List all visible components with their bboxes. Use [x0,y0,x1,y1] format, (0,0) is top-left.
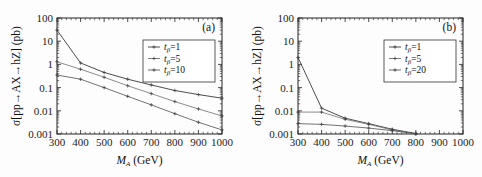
x-axis-title: MA (GeV) [356,154,403,168]
x-tick-label: 400 [313,136,330,148]
x-tick-label: 600 [360,136,377,148]
x-tick-label: 600 [119,136,136,148]
data-curve [57,75,222,130]
plot-b-svg: 30040050060070080090010000.0010.010.1110… [241,0,482,177]
y-tick-label: 0.1 [39,82,53,94]
x-tick-label: 500 [337,136,354,148]
panel-a: 30040050060070080090010000.0010.010.1110… [0,0,241,177]
y-tick-label: 1 [48,58,54,70]
x-tick-label: 700 [143,136,160,148]
x-tick-label: 400 [72,136,89,148]
plot-a-svg: 30040050060070080090010000.0010.010.1110… [0,0,241,177]
data-curve [298,124,416,134]
y-tick-label: 0.01 [275,105,294,117]
plot-b-content: 30040050060070080090010000.0010.010.1110… [251,12,475,168]
y-tick-label: 0.001 [28,128,53,140]
y-tick-label: 0.001 [269,128,294,140]
figure-container: 30040050060070080090010000.0010.010.1110… [0,0,482,177]
x-tick-label: 900 [190,136,207,148]
data-curve [298,112,416,134]
y-axis-title: σ[pp→AX→hZ] (pb) [251,26,264,126]
x-tick-label: 800 [408,136,425,148]
plot-a-content: 30040050060070080090010000.0010.010.1110… [10,12,234,168]
panel-tag: (a) [202,21,215,34]
y-tick-label: 100 [278,12,295,24]
x-tick-label: 800 [167,136,184,148]
y-tick-label: 0.01 [34,105,53,117]
y-tick-label: 1 [289,58,295,70]
x-tick-label: 500 [96,136,113,148]
y-tick-label: 10 [283,35,295,47]
panel-tag: (b) [443,21,457,34]
y-tick-label: 0.1 [280,82,294,94]
x-tick-label: 1000 [211,136,234,148]
y-axis-title: σ[pp→AX→hZ] (pb) [10,26,23,126]
x-tick-label: 900 [431,136,448,148]
y-tick-label: 10 [42,35,54,47]
x-axis-title: MA (GeV) [115,154,162,168]
x-tick-label: 1000 [452,136,475,148]
x-tick-label: 700 [384,136,401,148]
y-tick-label: 100 [37,12,54,24]
panel-b: 30040050060070080090010000.0010.010.1110… [241,0,482,177]
